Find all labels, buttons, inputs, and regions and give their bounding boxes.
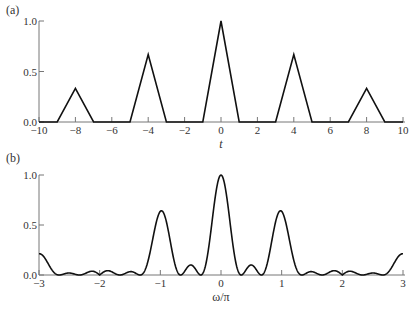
x-tick-label: 1 (279, 277, 285, 289)
x-tick-label: −4 (142, 124, 154, 136)
panel-b-label: (b) (6, 151, 20, 165)
panel-b-x-label: ω/π (212, 290, 229, 304)
x-tick-label: −1 (154, 277, 166, 289)
figure: (a) 0.00.51.0 −10−8−6−4−20246810 t (b) 0… (0, 0, 418, 313)
x-tick-label: 6 (327, 124, 333, 136)
y-tick-label: 1.0 (23, 15, 37, 27)
panel-a-x-label: t (219, 137, 223, 151)
panel-b-spectrum-series (39, 175, 403, 275)
x-tick-label: 8 (364, 124, 370, 136)
panel-b: (b) 0.00.51.0 −3−2−10123 ω/π (6, 151, 406, 304)
x-tick-label: 4 (291, 124, 297, 136)
x-tick-label: −3 (33, 277, 45, 289)
panel-b-x-ticks: −3−2−10123 (33, 270, 406, 289)
x-tick-label: 0 (218, 277, 224, 289)
x-tick-label: 2 (340, 277, 346, 289)
panel-a-label: (a) (6, 3, 19, 17)
x-tick-label: 3 (400, 277, 406, 289)
x-tick-label: −2 (94, 277, 106, 289)
y-tick-label: 0.5 (23, 66, 37, 78)
x-tick-label: −2 (179, 124, 191, 136)
x-tick-label: 10 (398, 124, 410, 136)
x-tick-label: −6 (106, 124, 118, 136)
panel-a-triangle-series (39, 21, 403, 122)
panel-a: (a) 0.00.51.0 −10−8−6−4−20246810 t (6, 3, 409, 151)
x-tick-label: −8 (70, 124, 82, 136)
panel-b-y-ticks: 0.00.51.0 (23, 169, 44, 281)
x-tick-label: 2 (255, 124, 261, 136)
panel-a-x-ticks: −10−8−6−4−20246810 (30, 117, 409, 136)
x-tick-label: 0 (218, 124, 224, 136)
x-tick-label: −10 (30, 124, 48, 136)
y-tick-label: 0.5 (23, 219, 37, 231)
panel-a-y-ticks: 0.00.51.0 (23, 15, 44, 128)
y-tick-label: 1.0 (23, 169, 37, 181)
